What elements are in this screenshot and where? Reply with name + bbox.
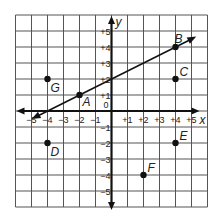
x-tick-label: +5 <box>186 115 196 125</box>
y-axis-up-arrow-icon <box>108 16 115 24</box>
point-label: C <box>180 65 189 79</box>
y-tick-label: −5 <box>100 187 110 197</box>
x-tick-label: −1 <box>90 115 100 125</box>
point-f: F <box>140 161 155 178</box>
point-label: E <box>180 129 189 143</box>
point-dot-icon <box>172 140 178 146</box>
x-tick-label: +1 <box>122 115 132 125</box>
point-a: A <box>76 92 90 109</box>
y-tick-label: +4 <box>100 43 110 53</box>
point-e: E <box>172 129 188 146</box>
y-tick-label: +3 <box>100 59 110 69</box>
point-label: B <box>175 32 183 46</box>
y-axis-label: y <box>115 15 123 29</box>
x-axis-label: x <box>199 113 207 127</box>
x-tick-label: +3 <box>154 115 164 125</box>
y-tick-label: −3 <box>100 155 110 165</box>
point-label: F <box>148 161 156 175</box>
point-label: A <box>82 95 91 109</box>
x-tick-label: −4 <box>42 115 52 125</box>
point-label: D <box>51 145 60 159</box>
x-axis-right-arrow-icon <box>192 108 200 115</box>
x-tick-label: +2 <box>138 115 148 125</box>
line-through-a-b <box>32 37 197 119</box>
point-dot-icon <box>140 172 146 178</box>
point-c: C <box>172 65 188 82</box>
y-tick-label: +5 <box>100 27 110 37</box>
origin-label: 0 <box>103 100 108 110</box>
y-tick-label: −2 <box>100 139 110 149</box>
y-tick-label: −4 <box>100 171 110 181</box>
x-tick-label: −2 <box>74 115 84 125</box>
coordinate-plane: −5−4−3−2−1+1+2+3+4+5+5+4+3+2+1−1−2−3−4−5… <box>0 0 220 219</box>
y-axis-down-arrow-icon <box>108 202 115 210</box>
points: ABCDEFG <box>44 32 188 178</box>
x-tick-label: +4 <box>170 115 180 125</box>
line-ab <box>39 40 189 115</box>
y-tick-label: −1 <box>100 123 110 133</box>
point-dot-icon <box>172 76 178 82</box>
x-tick-label: −3 <box>58 115 68 125</box>
x-axis-left-arrow-icon <box>17 108 25 115</box>
y-tick-label: +1 <box>100 91 110 101</box>
point-label: G <box>51 81 60 95</box>
